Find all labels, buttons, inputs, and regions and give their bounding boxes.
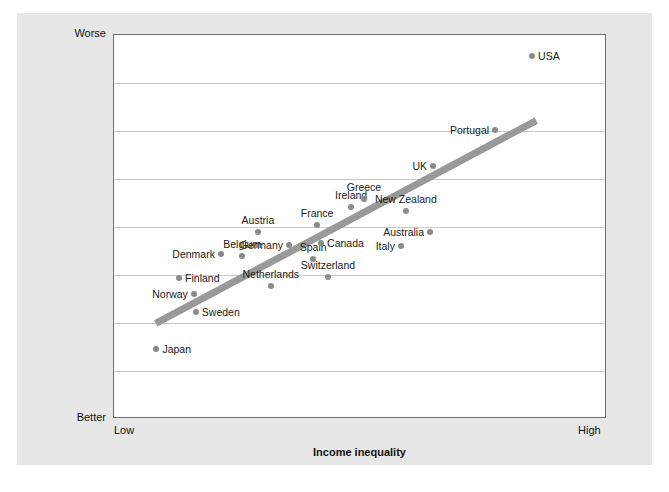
data-point-label: Switzerland (301, 260, 355, 271)
data-point (191, 291, 197, 297)
data-point (268, 283, 274, 289)
data-point (193, 309, 199, 315)
data-point-label: Austria (242, 215, 275, 226)
data-point-label: Finland (185, 273, 219, 284)
data-point (403, 208, 409, 214)
data-point (427, 229, 433, 235)
data-point-label: Netherlands (242, 269, 299, 280)
y-axis-title: Index of health and social problems (46, 0, 64, 52)
data-point-label: UK (412, 160, 427, 171)
data-point (529, 53, 535, 59)
data-point-label: Greece (347, 182, 381, 193)
data-point-label: Germany (240, 240, 283, 251)
x-axis-tick-low: Low (114, 424, 134, 436)
plot-area: JapanNorwaySwedenFinlandDenmarkBelgiumNe… (113, 34, 606, 418)
data-point-label: New Zealand (375, 194, 437, 205)
trend-line (114, 35, 605, 417)
figure: Worse Better Index of health and social … (0, 0, 669, 492)
x-axis-tick-high: High (578, 424, 601, 436)
x-axis-title: Income inequality (113, 446, 606, 458)
data-point-label: Japan (162, 344, 191, 355)
data-point (255, 229, 261, 235)
data-point-label: Sweden (202, 306, 240, 317)
data-point-label: USA (538, 50, 560, 61)
data-point-label: Denmark (172, 249, 215, 260)
data-point (286, 242, 292, 248)
data-point-label: Italy (376, 240, 395, 251)
data-point (430, 163, 436, 169)
data-point-label: France (301, 208, 334, 219)
data-point (492, 127, 498, 133)
data-point-label: Australia (383, 226, 424, 237)
data-point (398, 243, 404, 249)
data-point-label: Canada (327, 238, 364, 249)
data-point-label: Norway (152, 288, 188, 299)
y-axis-tick-better: Better (0, 411, 106, 423)
data-point (361, 196, 367, 202)
data-point-label: Portugal (450, 124, 489, 135)
